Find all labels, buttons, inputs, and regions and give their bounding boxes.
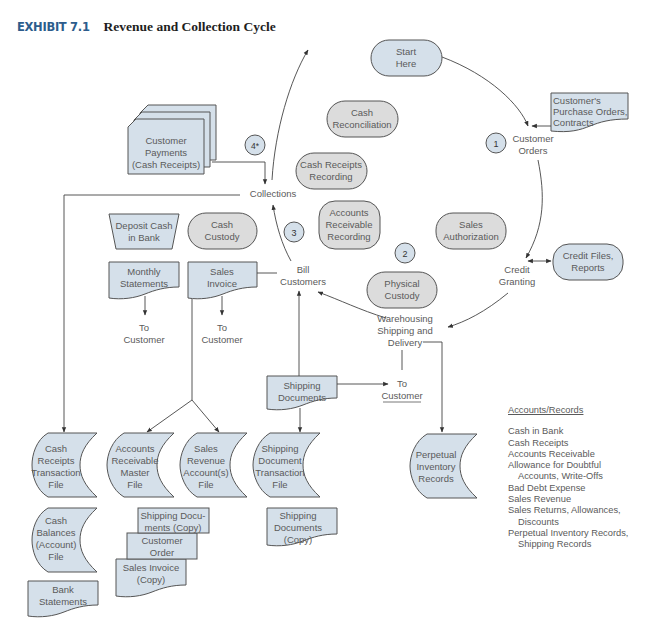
cash-receipts-tf-label-3: Transaction — [31, 467, 80, 478]
shipping-documents-document: Shipping Documents — [267, 376, 337, 410]
cash-receipts-tf-label-2: Receipts — [38, 455, 75, 466]
customer-payments-document: Customer Payments (Cash Receipts) — [128, 105, 216, 174]
collections-label: Collections — [250, 188, 297, 199]
accounts-records-legend: Accounts/Records Cash in Bank Cash Recei… — [508, 405, 628, 551]
ar-master-label-3: Master — [120, 467, 149, 478]
perpetual-inventory-label-1: Perpetual — [416, 449, 457, 460]
ar-master-label-1: Accounts — [115, 443, 154, 454]
legend-item: Sales Returns, Allowances, — [508, 505, 628, 516]
arc-credit-to-warehouse — [448, 293, 508, 327]
to-customer-3-label-1: To — [397, 378, 407, 389]
credit-granting-label-2: Granting — [499, 276, 535, 287]
legend-item: Accounts Receivable — [508, 449, 628, 460]
physical-custody-label-2: Custody — [385, 290, 420, 301]
step-warehousing: Warehousing Shipping and Delivery — [377, 313, 433, 348]
deposit-cash-node: Deposit Cash in Bank — [109, 214, 179, 249]
shipping-docs-copy-a-label-2: ments (Copy) — [144, 522, 201, 533]
monthly-statements-label-1: Monthly — [127, 266, 161, 277]
sales-invoice-copy-label-1: Sales Invoice — [123, 562, 180, 573]
shipping-doc-tf-label-2: Document — [258, 455, 302, 466]
monthly-statements-label-2: Statements — [120, 278, 168, 289]
step-number-4-badge: 4* — [245, 135, 265, 155]
sales-revenue-label-4: File — [198, 479, 213, 490]
step-number-3: 3 — [291, 228, 296, 238]
step-bill-customers: Bill Customers — [280, 264, 326, 287]
ar-recording-label-2: Receivable — [326, 219, 373, 230]
sales-invoice-label-2: Invoice — [207, 278, 237, 289]
shipping-docs-copy-b-document: Shipping Documents (Copy) — [267, 508, 337, 546]
customer-orders-label-2: Orders — [518, 145, 547, 156]
cash-receipts-tf-label-4: File — [48, 479, 63, 490]
customer-payments-label-1: Customer — [145, 135, 186, 146]
ar-recording-node: Accounts Receivable Recording — [319, 201, 380, 249]
shipping-doc-tf-label-1: Shipping — [262, 443, 299, 454]
ar-master-file: Accounts Receivable Master File — [107, 433, 174, 497]
step-number-2: 2 — [402, 249, 407, 259]
start-label-2: Here — [396, 58, 417, 69]
legend-item: Allowance for Doubtful — [508, 460, 628, 471]
ar-master-label-2: Receivable — [112, 455, 159, 466]
monthly-statements-document: Monthly Statements — [109, 262, 179, 299]
physical-custody-label-1: Physical — [384, 278, 419, 289]
to-customer-1-label-2: Customer — [123, 334, 164, 345]
perpetual-inventory-label-2: Inventory — [416, 461, 455, 472]
customer-payments-label-2: Payments — [145, 147, 187, 158]
to-customer-3: To Customer — [381, 378, 422, 402]
shipping-docs-copy-b-label-2: Documents — [274, 522, 322, 533]
legend-item: Cash in Bank — [508, 426, 628, 437]
step-number-4: 4* — [251, 141, 260, 151]
purchase-orders-document: Customer's Purchase Orders, Contracts — [551, 93, 628, 132]
start-label-1: Start — [396, 46, 416, 57]
bill-customers-label-1: Bill — [297, 264, 310, 275]
perpetual-inventory-file: Perpetual Inventory Records — [410, 434, 477, 498]
customer-orders-label-1: Customer — [512, 133, 553, 144]
to-customer-2: To Customer — [201, 322, 242, 345]
cash-receipts-transaction-file: Cash Receipts Transaction File — [31, 433, 97, 497]
step-number-1: 1 — [493, 139, 498, 149]
shipping-document-transaction-file: Shipping Document Transaction File — [253, 433, 320, 497]
cash-custody-label-2: Custody — [205, 231, 240, 242]
sales-authorization-label-2: Authorization — [443, 231, 498, 242]
credit-granting-label-1: Credit — [504, 264, 530, 275]
customer-order-label-1: Customer — [141, 535, 182, 546]
purchase-orders-label-2: Purchase Orders, — [553, 106, 627, 117]
shipping-documents-label-2: Documents — [278, 392, 326, 403]
sales-invoice-copy-label-2: (Copy) — [137, 574, 166, 585]
arc-orders-to-credit — [526, 160, 542, 258]
legend-item: Shipping Records — [508, 539, 628, 550]
sales-revenue-label-3: Account(s) — [183, 467, 228, 478]
step-number-3-badge: 3 — [284, 222, 304, 242]
legend-item: Perpetual Inventory Records, — [508, 528, 628, 539]
cash-receipts-recording-label-2: Recording — [309, 171, 352, 182]
cash-balances-label-4: File — [48, 551, 63, 562]
cash-custody-node: Cash Custody — [188, 213, 257, 249]
shipping-docs-copy-b-label-1: Shipping — [280, 510, 317, 521]
cash-custody-label-1: Cash — [211, 219, 233, 230]
step-credit-granting: Credit Granting — [499, 264, 535, 287]
cash-balances-label-1: Cash — [45, 515, 67, 526]
step-number-2-badge: 2 — [395, 243, 415, 263]
sales-revenue-label-1: Sales — [194, 443, 218, 454]
credit-files-label-1: Credit Files, — [563, 250, 614, 261]
customer-order-label-2: Order — [150, 547, 174, 558]
legend-item: Bad Debt Expense — [508, 483, 628, 494]
bank-statements-label-2: Statements — [39, 596, 87, 607]
sales-invoice-label-1: Sales — [210, 266, 234, 277]
deposit-cash-label-2: in Bank — [128, 232, 160, 243]
shipping-doc-tf-label-3: Transaction — [255, 467, 304, 478]
cash-balances-label-3: (Account) — [36, 539, 77, 550]
cash-reconciliation-label-1: Cash — [351, 107, 373, 118]
ar-recording-label-1: Accounts — [329, 207, 368, 218]
legend-item: Accounts, Write-Offs — [508, 471, 628, 482]
shipping-docs-copy-b-label-3: (Copy) — [284, 534, 313, 545]
to-customer-1: To Customer — [123, 322, 164, 345]
cash-receipts-recording-label-1: Cash Receipts — [300, 159, 362, 170]
ar-master-label-4: File — [127, 479, 142, 490]
cash-receipts-recording-node: Cash Receipts Recording — [296, 153, 367, 189]
cash-reconciliation-node: Cash Reconciliation — [327, 101, 398, 137]
deposit-cash-label-1: Deposit Cash — [115, 220, 172, 231]
cash-receipts-tf-label-1: Cash — [45, 443, 67, 454]
arrow-to-ar-master — [147, 400, 192, 432]
purchase-orders-label-3: Contracts — [553, 117, 594, 128]
warehousing-label-2: Shipping and — [377, 325, 432, 336]
